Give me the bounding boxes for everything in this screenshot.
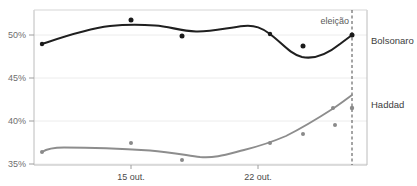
x-axis-ticks: 15 out. 22 out.	[117, 165, 272, 182]
data-point	[350, 106, 354, 110]
data-point	[180, 34, 185, 39]
data-point	[333, 123, 337, 127]
chart-canvas: 50% 45% 40% 35% 15 out. 22 out. eleição	[0, 0, 417, 186]
data-point	[350, 33, 355, 38]
plot-background	[34, 10, 367, 165]
data-point	[301, 44, 306, 49]
data-point	[268, 141, 272, 145]
ytick-label-35: 35%	[8, 159, 26, 169]
data-point	[40, 42, 44, 46]
xtick-label-22out: 22 out.	[244, 172, 272, 182]
data-point	[40, 150, 44, 154]
ytick-label-40: 40%	[8, 116, 26, 126]
data-point	[301, 132, 305, 136]
data-point	[129, 141, 133, 145]
data-point	[180, 158, 184, 162]
ytick-label-45: 45%	[8, 73, 26, 83]
poll-trend-chart: 50% 45% 40% 35% 15 out. 22 out. eleição	[0, 0, 417, 186]
series-label-bolsonaro: Bolsonaro	[371, 35, 414, 46]
y-axis-ticks: 50% 45% 40% 35%	[8, 30, 34, 169]
xtick-label-15out: 15 out.	[117, 172, 145, 182]
ytick-label-50: 50%	[8, 30, 26, 40]
data-point	[129, 18, 134, 23]
data-point	[268, 32, 272, 36]
election-marker-label: eleição	[320, 16, 349, 26]
series-label-haddad: Haddad	[371, 99, 404, 110]
data-point	[331, 106, 335, 110]
